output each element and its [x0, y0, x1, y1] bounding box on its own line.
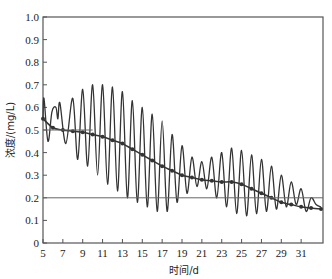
trend-marker — [250, 187, 254, 191]
trend-marker — [190, 175, 194, 179]
y-tick-label: 0.1 — [25, 214, 39, 226]
y-tick-label: 0.6 — [25, 101, 39, 113]
trend-marker — [130, 147, 134, 151]
trend-marker — [81, 130, 85, 134]
x-tick-label: 23 — [216, 247, 228, 259]
y-tick-label: 0 — [34, 237, 40, 249]
x-tick-label: 13 — [117, 247, 129, 259]
x-tick-label: 31 — [296, 247, 307, 259]
x-tick-label: 9 — [80, 247, 86, 259]
y-tick-label: 0.5 — [25, 124, 39, 136]
trend-marker — [101, 135, 105, 139]
trend-marker — [160, 164, 164, 168]
x-axis-ticks: 5791113151719212325272931 — [40, 239, 306, 259]
trend-marker — [210, 179, 214, 183]
trend-marker — [259, 191, 263, 195]
y-tick-label: 0.3 — [25, 169, 39, 181]
trend-marker — [200, 178, 204, 182]
concentration-chart: 00.10.20.30.40.50.60.70.80.91.0 57911131… — [0, 0, 332, 279]
y-tick-label: 0.2 — [25, 192, 39, 204]
trend-marker — [170, 169, 174, 173]
trend-marker — [289, 203, 293, 207]
trend-marker — [240, 182, 244, 186]
trend-marker — [230, 180, 234, 184]
x-tick-label: 17 — [157, 247, 169, 259]
trend-marker — [299, 205, 303, 209]
x-axis-title: 时间/d — [169, 264, 199, 276]
trend-marker — [51, 126, 55, 130]
trend-marker — [180, 173, 184, 177]
x-tick-label: 25 — [236, 247, 248, 259]
trend-marker — [140, 153, 144, 157]
x-tick-label: 7 — [60, 247, 66, 259]
trend-marker — [150, 159, 154, 163]
trend-marker — [120, 142, 124, 146]
trend-marker — [41, 117, 45, 121]
y-tick-label: 0.8 — [25, 56, 39, 68]
y-axis-title: 浓度/(mg/L) — [4, 102, 16, 158]
x-tick-label: 15 — [137, 247, 149, 259]
trend-marker — [220, 180, 224, 184]
y-tick-label: 0.9 — [25, 34, 39, 46]
y-tick-label: 0.7 — [25, 79, 39, 91]
trend-marker — [279, 200, 283, 204]
trend-marker — [309, 206, 313, 210]
series-layer — [41, 85, 323, 216]
x-tick-label: 11 — [97, 247, 108, 259]
oscillating-series-line — [43, 85, 321, 216]
y-tick-label: 0.4 — [25, 147, 39, 159]
trend-marker — [319, 207, 323, 211]
x-tick-label: 27 — [256, 247, 268, 259]
x-tick-label: 21 — [196, 247, 207, 259]
x-tick-label: 29 — [276, 247, 288, 259]
y-tick-label: 1.0 — [25, 11, 39, 23]
x-tick-label: 5 — [40, 247, 46, 259]
trend-marker — [111, 138, 115, 142]
x-tick-label: 19 — [177, 247, 189, 259]
trend-marker — [91, 133, 95, 137]
